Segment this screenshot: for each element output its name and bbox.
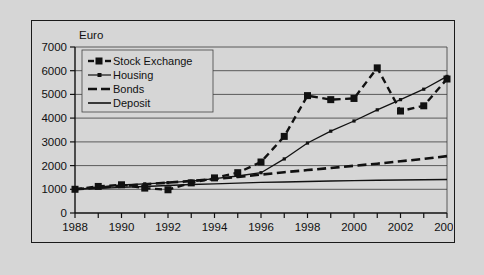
- data-point-marker: [304, 92, 311, 99]
- x-tick-label-1998: 1998: [295, 221, 321, 233]
- data-point-marker: [281, 133, 288, 140]
- data-point-marker: [397, 108, 404, 115]
- data-point-marker: [399, 98, 402, 101]
- data-point-marker: [420, 102, 427, 109]
- y-tick-label-0: 0: [61, 207, 67, 219]
- y-tick-label-2000: 2000: [41, 160, 67, 172]
- chart-frame: 7000 6000 5000 4000 3000 2000 1000 0 Eur…: [31, 20, 455, 243]
- y-tick-label-1000: 1000: [41, 183, 67, 195]
- data-point-marker: [327, 96, 334, 103]
- y-tick-label-6000: 6000: [41, 65, 67, 77]
- x-tick-label-2002: 2002: [388, 221, 414, 233]
- x-tick-label-1996: 1996: [248, 221, 274, 233]
- data-point-marker: [329, 130, 332, 133]
- x-tick-label-1994: 1994: [202, 221, 228, 233]
- legend-label-housing: Housing: [113, 69, 153, 81]
- data-point-marker: [352, 119, 355, 122]
- legend-label-stock-exchange: Stock Exchange: [113, 55, 193, 67]
- x-tick-label-1992: 1992: [155, 221, 181, 233]
- data-point-marker: [351, 95, 358, 102]
- y-axis-unit-label: Euro: [79, 29, 103, 41]
- legend-label-bonds: Bonds: [113, 83, 145, 95]
- data-point-marker: [166, 181, 169, 184]
- investment-growth-line-chart: 7000 6000 5000 4000 3000 2000 1000 0 Eur…: [32, 21, 453, 241]
- y-tick-label-5000: 5000: [41, 88, 67, 100]
- x-tick-label-2004: 2004: [434, 221, 453, 233]
- data-point-marker: [306, 141, 309, 144]
- legend-label-deposit: Deposit: [113, 97, 150, 109]
- data-point-marker: [259, 171, 262, 174]
- y-tick-label-7000: 7000: [41, 41, 67, 53]
- data-point-marker: [374, 64, 381, 71]
- y-tick-label-3000: 3000: [41, 136, 67, 148]
- chart-legend: Stock Exchange Housing Bonds: [82, 50, 213, 112]
- x-axis-tick-labels: 1988 1990 1992 1994 1996 1998 2000 2002 …: [62, 221, 453, 233]
- data-point-marker: [165, 186, 172, 193]
- x-tick-label-1988: 1988: [62, 221, 88, 233]
- y-tick-label-4000: 4000: [41, 112, 67, 124]
- data-point-marker: [258, 159, 265, 166]
- x-tick-label-1990: 1990: [109, 221, 135, 233]
- data-point-marker: [422, 88, 425, 91]
- data-point-marker: [283, 157, 286, 160]
- x-tick-label-2000: 2000: [341, 221, 367, 233]
- chart-page: 7000 6000 5000 4000 3000 2000 1000 0 Eur…: [0, 0, 484, 275]
- data-point-marker: [376, 108, 379, 111]
- data-point-marker: [445, 75, 448, 78]
